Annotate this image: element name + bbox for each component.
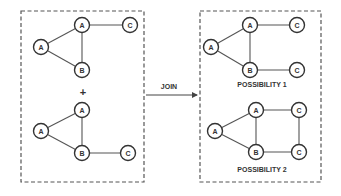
graph-node-c: C	[290, 18, 305, 33]
graph-node-b: B	[75, 63, 90, 78]
svg-text:C: C	[294, 67, 299, 74]
graph-node-a: A	[249, 103, 264, 118]
svg-text:B: B	[247, 67, 252, 74]
possibility-1-label: POSSIBILITY 1	[237, 81, 286, 88]
graph-node-c: C	[121, 146, 136, 161]
svg-text:A: A	[247, 22, 252, 29]
graph-node-a: A	[34, 124, 49, 139]
graph-node-c: C	[123, 18, 138, 33]
svg-text:C: C	[296, 149, 301, 156]
graph-left-bottom: AABC	[34, 103, 136, 161]
svg-text:A: A	[208, 44, 213, 51]
svg-text:B: B	[253, 149, 258, 156]
graph-node-a: A	[243, 18, 258, 33]
graph-node-b: B	[243, 63, 258, 78]
svg-text:A: A	[38, 128, 43, 135]
svg-text:A: A	[79, 107, 84, 114]
graph-join-diagram: AACB + AABC JOIN AACBC POSSIBILITY 1 AAC…	[0, 0, 341, 196]
svg-text:C: C	[125, 150, 130, 157]
graph-left-top: AACB	[34, 18, 138, 78]
svg-text:C: C	[296, 107, 301, 114]
svg-text:C: C	[127, 22, 132, 29]
graph-node-c: C	[292, 103, 307, 118]
graph-node-a: A	[75, 103, 90, 118]
graph-node-a: A	[208, 124, 223, 139]
graph-node-b: B	[75, 146, 90, 161]
graph-node-c: C	[290, 63, 305, 78]
graph-node-a: A	[34, 40, 49, 55]
svg-text:C: C	[294, 22, 299, 29]
graph-node-c: C	[292, 145, 307, 160]
svg-text:A: A	[38, 44, 43, 51]
join-label: JOIN	[161, 83, 177, 90]
possibility-2-label: POSSIBILITY 2	[237, 166, 286, 173]
svg-text:B: B	[79, 67, 84, 74]
graph-possibility-2: AACBC	[208, 103, 307, 160]
svg-text:A: A	[79, 22, 84, 29]
graph-node-b: B	[249, 145, 264, 160]
graph-possibility-1: AACBC	[204, 18, 305, 78]
svg-text:A: A	[212, 128, 217, 135]
svg-text:A: A	[253, 107, 258, 114]
svg-text:B: B	[79, 150, 84, 157]
plus-operator: +	[80, 86, 86, 98]
graph-node-a: A	[75, 18, 90, 33]
graph-node-a: A	[204, 40, 219, 55]
